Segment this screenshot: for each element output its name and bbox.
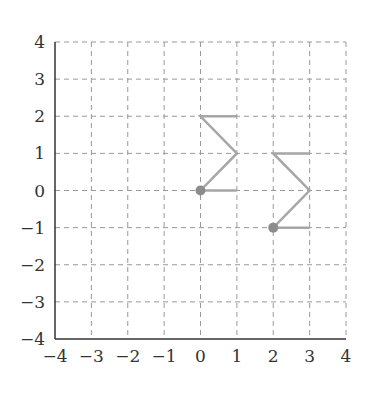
x-tick-label: −1 <box>152 346 177 366</box>
y-tick-label: 0 <box>34 181 45 201</box>
x-tick-labels: −4−3−2−101234 <box>42 346 351 366</box>
y-tick-label: −4 <box>20 329 45 349</box>
x-tick-label: 2 <box>268 346 279 366</box>
x-tick-label: 3 <box>304 346 315 366</box>
shapes <box>196 116 310 232</box>
coordinate-plane: −4−3−2−101234 43210−1−2−3−4 <box>0 0 369 400</box>
x-tick-label: 1 <box>231 346 242 366</box>
x-tick-label: 4 <box>341 346 352 366</box>
x-tick-label: −4 <box>42 346 67 366</box>
y-tick-label: 4 <box>34 32 45 52</box>
x-tick-label: −3 <box>79 346 104 366</box>
y-tick-label: 3 <box>34 69 45 89</box>
sigma-shape-translated <box>268 153 309 232</box>
y-tick-label: 2 <box>34 106 45 126</box>
start-point-dot <box>196 186 206 196</box>
y-tick-label: −3 <box>20 292 45 312</box>
x-tick-label: −2 <box>115 346 140 366</box>
y-tick-labels: 43210−1−2−3−4 <box>20 32 45 349</box>
y-tick-label: −1 <box>20 218 45 238</box>
y-tick-label: 1 <box>34 143 45 163</box>
start-point-dot <box>268 223 278 233</box>
sigma-shape-original <box>196 116 237 195</box>
y-tick-label: −2 <box>20 255 45 275</box>
x-tick-label: 0 <box>195 346 206 366</box>
